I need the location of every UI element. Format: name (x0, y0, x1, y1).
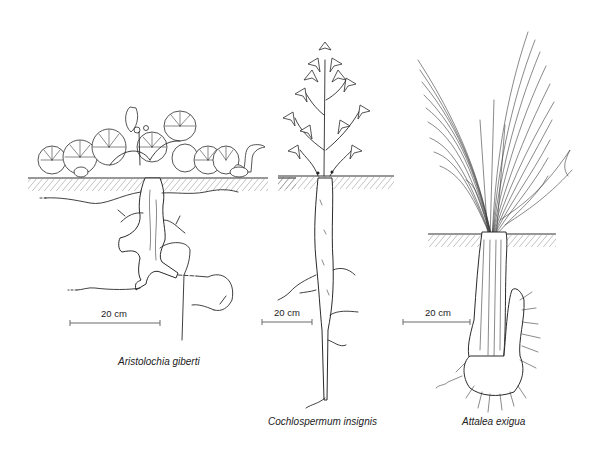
scale-label-aristolochia: 20 cm (101, 308, 127, 319)
cochlospermum-shoot (283, 42, 370, 176)
scale-label-attalea: 20 cm (425, 307, 451, 318)
species-label-attalea-exigua: Attalea exigua (462, 416, 525, 427)
attalea-fronds (418, 32, 572, 240)
scale-bar-aristolochia (70, 320, 160, 326)
aristolochia-leaves (38, 107, 265, 177)
plant-aristolochia-giberti (28, 107, 296, 340)
species-label-aristolochia-giberti: Aristolochia giberti (118, 356, 200, 367)
botanical-illustration (0, 0, 597, 457)
aristolochia-roots (38, 190, 238, 340)
species-label-cochlospermum-insignis: Cochlospermum insignis (268, 416, 377, 427)
ground-line-cochlospermum (278, 176, 394, 189)
scale-bar-cochlospermum (262, 319, 312, 325)
scale-bar-attalea (403, 319, 470, 325)
scale-label-cochlospermum: 20 cm (274, 307, 300, 318)
plant-cochlospermum-insignis (278, 42, 394, 408)
cochlospermum-lateral-roots (278, 268, 358, 408)
cochlospermum-taproot (315, 178, 334, 400)
plant-attalea-exigua (418, 32, 572, 412)
